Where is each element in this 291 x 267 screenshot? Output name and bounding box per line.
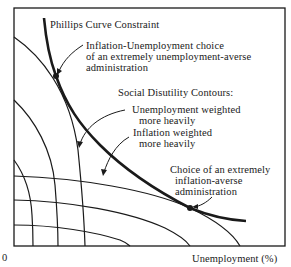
arrow-unemp-weighted bbox=[80, 110, 125, 144]
unemp-averse-label-3: administration bbox=[86, 62, 148, 73]
arrowhead-icon bbox=[101, 169, 107, 176]
infl-weighted-label-1: Inflation weighted bbox=[133, 127, 212, 138]
phillips-curve-label: Phillips Curve Constraint bbox=[50, 19, 159, 30]
unemployment-weighted-contours bbox=[14, 37, 85, 246]
origin-label: 0 bbox=[2, 252, 7, 263]
infl-averse-label-3: administration bbox=[175, 186, 237, 197]
unemp-averse-label-1: Inflation-Unemployment choice bbox=[86, 40, 224, 51]
infl-averse-label-1: Choice of an extremely bbox=[170, 164, 270, 175]
unemp-averse-label-2: of an extremely unemployment-averse bbox=[86, 51, 251, 62]
inflation-averse-choice-point bbox=[187, 205, 193, 211]
contour-unemp-3 bbox=[14, 160, 33, 246]
contour-infl-2 bbox=[14, 200, 190, 246]
infl-weighted-label-2: more heavily bbox=[139, 138, 195, 149]
contours-heading: Social Disutility Contours: bbox=[118, 87, 233, 98]
infl-averse-label-2: inflation-averse bbox=[175, 175, 243, 186]
unemp-weighted-label-2: more heavily bbox=[139, 115, 195, 126]
contour-unemp-2 bbox=[14, 100, 58, 246]
x-axis-label: Unemployment (%) bbox=[192, 253, 277, 264]
contour-unemp-1 bbox=[14, 37, 85, 246]
unemp-weighted-label-1: Unemployment weighted bbox=[132, 104, 241, 115]
contour-infl-3 bbox=[14, 225, 130, 246]
arrow-unemp-averse bbox=[59, 45, 83, 71]
